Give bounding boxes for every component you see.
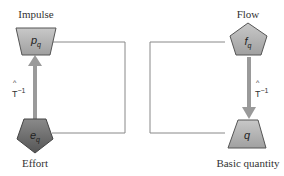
- right-connector-line: [150, 42, 225, 133]
- flow-label: Flow: [237, 8, 260, 20]
- impulse-label: Impulse: [18, 8, 53, 20]
- diagram-canvas: [0, 0, 284, 176]
- left-connector-line: [52, 42, 125, 133]
- left-inverse-operator: ^T−1: [12, 79, 25, 98]
- right-arrow-down: [242, 57, 256, 119]
- left-arrow-up: [28, 55, 42, 122]
- right-inverse-operator: ^T−1: [255, 79, 268, 98]
- basic-quantity-symbol: q: [244, 129, 250, 141]
- basic-quantity-label: Basic quantity: [216, 157, 279, 169]
- impulse-symbol: pq: [31, 34, 41, 48]
- flow-symbol: fq: [245, 35, 252, 49]
- effort-symbol: eq: [30, 129, 40, 143]
- effort-label: Effort: [22, 157, 48, 169]
